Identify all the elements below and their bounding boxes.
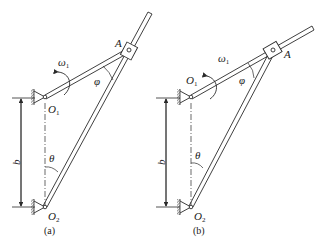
phi-arc-a — [103, 66, 113, 80]
label-omega-a: ω1 — [58, 56, 70, 70]
label-phi-a: φ — [94, 75, 100, 87]
crank-o1a-b — [191, 26, 314, 99]
theta-arc-b — [191, 163, 203, 168]
label-o2-b: O2 — [194, 210, 206, 224]
dimension-b-a — [12, 98, 35, 207]
pin-o1-a — [43, 95, 47, 99]
label-A-b: A — [283, 48, 291, 60]
label-b-a: b — [10, 159, 22, 165]
pin-a-b — [271, 48, 275, 52]
label-phi-b: φ — [239, 74, 245, 86]
label-A-a: A — [114, 37, 122, 49]
caption-b: (b) — [193, 225, 205, 237]
label-b-b: b — [155, 159, 167, 165]
pin-o1-b — [189, 95, 193, 99]
mechanism-diagram: b — [0, 0, 320, 249]
pin-a-a — [127, 48, 131, 52]
label-theta-b: θ — [195, 149, 201, 161]
pin-o2-b — [189, 205, 193, 209]
dimension-b-b — [156, 98, 180, 207]
label-o1-b: O1 — [186, 74, 198, 88]
label-theta-a: θ — [49, 152, 55, 164]
pin-o2-a — [43, 205, 47, 209]
rocker-o2-b — [189, 49, 275, 207]
figure-a: b — [10, 12, 152, 237]
label-omega-b: ω1 — [218, 52, 230, 66]
label-o1-a: O1 — [48, 103, 60, 117]
theta-arc-a — [45, 167, 58, 172]
label-o2-a: O2 — [48, 210, 60, 224]
caption-a: (a) — [44, 225, 55, 237]
figure-b: b A ω1 φ O — [155, 26, 314, 237]
